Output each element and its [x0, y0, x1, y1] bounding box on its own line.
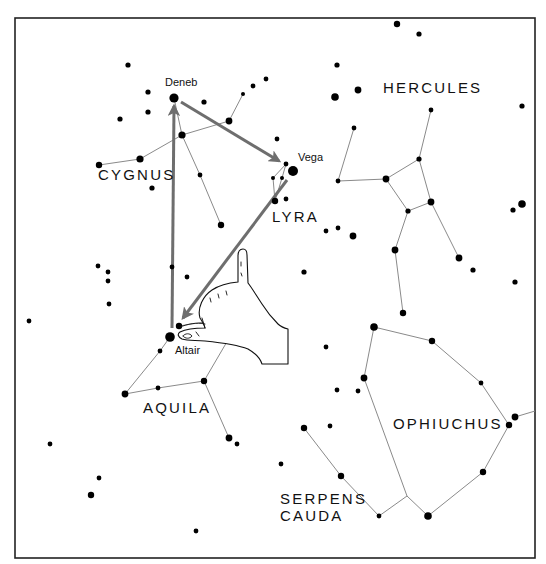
- star: [88, 492, 94, 498]
- star: [510, 207, 515, 212]
- star: [361, 375, 368, 382]
- star: [429, 338, 435, 344]
- star: [405, 208, 410, 213]
- star: [416, 31, 421, 36]
- star: [201, 378, 207, 384]
- star: [284, 162, 289, 167]
- star: [279, 462, 284, 467]
- constellation-line-hercules-a: [338, 110, 431, 181]
- star: [336, 179, 341, 184]
- star: [512, 279, 517, 284]
- star: [280, 176, 284, 180]
- star: [429, 108, 434, 113]
- star: [251, 84, 256, 89]
- star: [241, 92, 245, 96]
- star: [480, 469, 486, 475]
- star: [158, 349, 163, 354]
- star: [194, 529, 199, 534]
- star: [356, 389, 361, 394]
- star: [218, 222, 224, 228]
- star: [352, 126, 357, 131]
- chart-frame: [15, 18, 535, 558]
- star: [48, 442, 53, 447]
- star-label-altair: Altair: [175, 344, 200, 356]
- star: [284, 197, 289, 202]
- star: [165, 332, 175, 342]
- star: [178, 131, 185, 138]
- constellation-line-hercules-b: [386, 159, 431, 211]
- star: [350, 233, 357, 240]
- star: [136, 155, 143, 162]
- star: [198, 173, 203, 178]
- star: [145, 109, 150, 114]
- star: [370, 323, 378, 331]
- constellation-label-serpens: SERPENS: [280, 490, 367, 507]
- star: [377, 514, 382, 519]
- star: [335, 388, 340, 393]
- star: [107, 302, 112, 307]
- star: [512, 414, 519, 421]
- star: [301, 269, 306, 274]
- star: [176, 323, 182, 329]
- star: [271, 176, 275, 180]
- constellation-line-cygnus: [99, 94, 243, 165]
- arrow-deneb-to-vega: [181, 102, 279, 161]
- star: [519, 103, 524, 108]
- star: [264, 77, 269, 82]
- stars: [27, 21, 526, 534]
- star: [170, 265, 175, 270]
- star: [122, 391, 129, 398]
- star: [324, 345, 329, 350]
- star: [416, 156, 421, 161]
- star: [235, 442, 240, 447]
- star-label-vega: Vega: [298, 151, 324, 163]
- star: [334, 62, 339, 67]
- constellation-label-aquila: AQUILA: [143, 399, 211, 416]
- star: [226, 435, 233, 442]
- constellation-label-lyra: LYRA: [272, 208, 319, 225]
- star: [149, 185, 154, 190]
- star: [424, 512, 432, 520]
- star-label-deneb: Deneb: [165, 76, 197, 88]
- star: [479, 381, 484, 386]
- arrow-altair-to-deneb: [172, 106, 174, 328]
- star: [383, 176, 390, 183]
- constellation-line-hercules-d: [395, 211, 408, 313]
- star: [96, 264, 101, 269]
- star: [185, 275, 190, 280]
- star: [272, 198, 278, 204]
- constellation-labels: CYGNUSLYRAHERCULESAQUILAOPHIUCHUSSERPENS…: [98, 79, 503, 524]
- star: [392, 247, 399, 254]
- star: [338, 473, 344, 479]
- star: [470, 267, 475, 272]
- constellation-label-ophiuchus: OPHIUCHUS: [393, 415, 503, 432]
- star: [226, 118, 233, 125]
- constellation-line-cygnus-body: [174, 98, 221, 225]
- star: [288, 166, 298, 176]
- star: [106, 270, 111, 275]
- star: [428, 199, 435, 206]
- star: [156, 386, 161, 391]
- star: [456, 255, 463, 262]
- star: [394, 21, 400, 27]
- constellation-label-hercules: HERCULES: [383, 79, 482, 96]
- constellation-line-hercules-c: [431, 202, 459, 258]
- star: [355, 87, 362, 94]
- star: [518, 200, 526, 208]
- star: [301, 425, 307, 431]
- star: [336, 226, 341, 231]
- star: [125, 62, 130, 67]
- star-chart: CYGNUSLYRAHERCULESAQUILAOPHIUCHUSSERPENS…: [0, 0, 546, 564]
- constellation-label-cauda: CAUDA: [280, 507, 344, 524]
- star: [97, 476, 102, 481]
- star: [201, 99, 206, 104]
- star: [324, 229, 329, 234]
- star: [506, 422, 512, 428]
- star: [27, 319, 32, 324]
- star: [106, 279, 111, 284]
- star: [145, 89, 150, 94]
- star: [169, 93, 178, 102]
- star: [117, 116, 122, 121]
- star: [400, 310, 406, 316]
- star: [331, 93, 339, 101]
